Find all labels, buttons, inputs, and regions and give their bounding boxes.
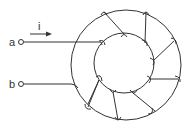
current-label: i — [38, 20, 40, 32]
terminal-a[interactable] — [19, 40, 24, 45]
terminal-b[interactable] — [19, 82, 24, 87]
toroid-outer-circle — [71, 10, 181, 120]
lead-a-wire — [24, 42, 102, 45]
terminal-a-label: a — [9, 36, 16, 48]
lead-b-connect — [88, 80, 99, 104]
current-arrow-head — [46, 32, 52, 37]
terminal-b-label: b — [9, 78, 15, 90]
lead-b-wire — [24, 84, 78, 88]
toroid-diagram: a b i — [0, 0, 192, 127]
winding-loops — [85, 12, 180, 120]
